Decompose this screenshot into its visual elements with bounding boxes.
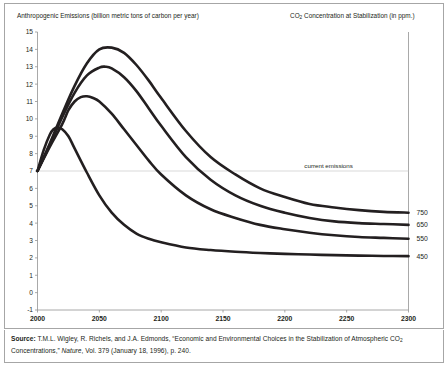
- x-tick-label: 2100: [154, 315, 169, 322]
- x-tick-label: 2000: [30, 315, 45, 322]
- x-tick-label: 2150: [215, 315, 230, 322]
- y-tick-label: 10: [26, 115, 34, 122]
- source-label: Source:: [11, 335, 36, 342]
- series-end-label-550: 550: [417, 235, 429, 242]
- source-co2-subscript: 2: [400, 338, 403, 343]
- x-tick-label: 2200: [277, 315, 292, 322]
- y-tick-label: 9: [29, 133, 33, 140]
- x-tick-label: 2300: [401, 315, 416, 322]
- x-tick-label: 2250: [339, 315, 354, 322]
- annotation-current-emissions: current emissions: [304, 162, 353, 169]
- y-tick-label: 14: [26, 46, 34, 53]
- emissions-line-chart: -101234567891011121314152000205021002150…: [0, 0, 448, 330]
- y-tick-label: 7: [29, 167, 33, 174]
- y-tick-label: 1: [29, 272, 33, 279]
- source-line-2: Concentrations,” Nature, Vol. 379 (Janua…: [11, 346, 437, 356]
- source-note: Source: T.M.L. Wigley, R. Richels, and J…: [4, 330, 444, 363]
- y-tick-label: 13: [26, 63, 34, 70]
- source-line-1: Source: T.M.L. Wigley, R. Richels, and J…: [11, 334, 437, 346]
- source-journal: Nature: [62, 347, 82, 354]
- y-tick-label: 6: [29, 185, 33, 192]
- y-tick-label: 11: [26, 98, 33, 105]
- y-tick-label: 4: [29, 220, 33, 227]
- y-tick-label: 8: [29, 150, 33, 157]
- series-end-label-450: 450: [417, 253, 429, 260]
- source-text-a: T.M.L. Wigley, R. Richels, and J.A. Edmo…: [36, 335, 400, 342]
- y-tick-label: 3: [29, 237, 33, 244]
- y-tick-label: 12: [26, 81, 34, 88]
- source-text-c: , Vol. 379 (January 18, 1996), p. 240.: [81, 347, 190, 354]
- y-tick-label: 2: [29, 254, 33, 261]
- series-end-label-750: 750: [417, 209, 429, 216]
- x-tick-label: 2050: [92, 315, 107, 322]
- source-text-b: Concentrations,”: [11, 347, 62, 354]
- figure-container: Anthropogenic Emissions (billion metric …: [0, 0, 448, 367]
- y-tick-label: 5: [29, 202, 33, 209]
- series-end-label-650: 650: [417, 221, 429, 228]
- y-tick-label: 15: [26, 28, 34, 35]
- y-tick-label: -1: [27, 306, 33, 313]
- y-tick-label: 0: [29, 289, 33, 296]
- series-curve-650: [38, 67, 409, 225]
